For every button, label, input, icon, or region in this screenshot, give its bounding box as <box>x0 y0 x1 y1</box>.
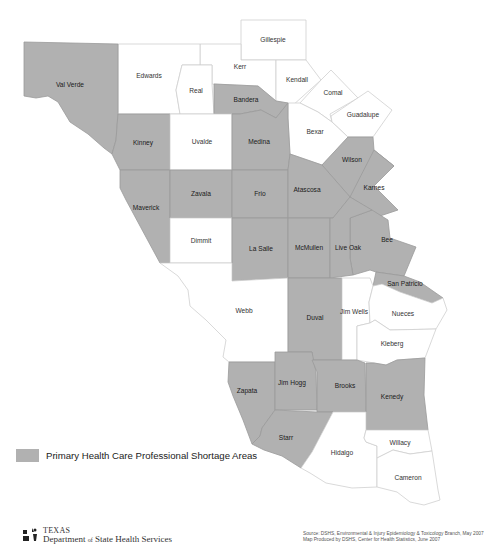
county-map: Gillespie Kerr Kendall Comal Guadalupe E… <box>0 0 469 510</box>
label-guadalupe: Guadalupe <box>347 111 380 119</box>
label-bexar: Bexar <box>306 128 324 135</box>
source-line-2: Map Produced by DSHS, Center for Health … <box>303 537 484 543</box>
logo-department-text: Department of State Health Services <box>43 535 172 545</box>
label-starr: Starr <box>279 434 294 441</box>
county-maverick[interactable] <box>120 170 170 263</box>
label-bee: Bee <box>381 236 393 243</box>
county-val-verde[interactable] <box>24 42 118 154</box>
label-edwards: Edwards <box>136 72 162 79</box>
label-wilson: Wilson <box>342 156 362 163</box>
label-live-oak: Live Oak <box>335 244 362 251</box>
label-real: Real <box>189 87 203 94</box>
label-cameron: Cameron <box>394 474 421 481</box>
label-uvalde: Uvalde <box>192 138 213 145</box>
source-credits: Source: DSHS, Environmental & Injury Epi… <box>303 531 484 543</box>
label-zapata: Zapata <box>237 387 258 395</box>
label-kinney: Kinney <box>133 139 154 147</box>
label-frio: Frio <box>254 190 266 197</box>
dshs-logo: TEXAS Department of State Health Service… <box>23 526 172 545</box>
label-san-patricio: San Patricio <box>387 280 423 287</box>
legend-label: Primary Health Care Professional Shortag… <box>46 450 257 461</box>
label-kendall: Kendall <box>286 76 309 83</box>
label-duval: Duval <box>307 314 324 321</box>
label-gillespie: Gillespie <box>260 36 286 44</box>
label-jim-hogg: Jim Hogg <box>278 379 306 387</box>
label-atascosa: Atascosa <box>293 186 320 193</box>
label-brooks: Brooks <box>335 382 356 389</box>
texas-dshs-logo-icon <box>23 526 39 542</box>
label-zavala: Zavala <box>191 190 211 197</box>
label-kenedy: Kenedy <box>381 393 404 401</box>
label-nueces: Nueces <box>392 310 415 317</box>
label-comal: Comal <box>323 89 343 96</box>
label-mcmullen: McMullen <box>295 244 324 251</box>
label-bandera: Bandera <box>234 96 259 103</box>
label-val-verde: Val Verde <box>56 81 84 88</box>
label-kleberg: Kleberg <box>381 340 404 348</box>
label-karnes: Karnes <box>364 184 386 191</box>
label-dimmit: Dimmit <box>191 237 212 244</box>
label-hidalgo: Hidalgo <box>331 449 354 457</box>
legend-swatch-shortage <box>16 449 39 462</box>
label-willacy: Willacy <box>390 439 412 447</box>
label-la-salle: La Salle <box>249 245 273 252</box>
label-medina: Medina <box>248 138 270 145</box>
map-legend: Primary Health Care Professional Shortag… <box>16 449 257 462</box>
label-webb: Webb <box>235 307 252 314</box>
label-kerr: Kerr <box>234 63 247 70</box>
label-maverick: Maverick <box>133 204 160 211</box>
label-jim-wells: Jim Wells <box>340 308 369 315</box>
